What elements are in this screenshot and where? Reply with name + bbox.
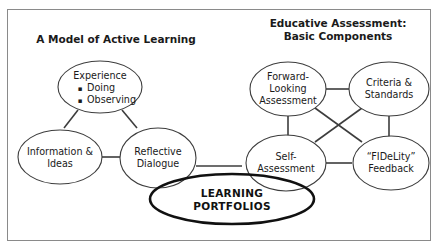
node-forward-looking-line3: Assessment [259, 95, 317, 106]
node-fidelity-line1: “FIDeLity” [367, 151, 416, 162]
node-fidelity-feedback[interactable]: “FIDeLity” Feedback [353, 136, 429, 190]
node-experience[interactable]: Experience ▪ Doing ▪ Observing [58, 61, 142, 113]
heading-left: A Model of Active Learning [36, 33, 196, 45]
node-self-assessment[interactable]: Self- Assessment [246, 135, 326, 191]
node-criteria-line1: Criteria & [366, 77, 413, 88]
node-forward-looking-line2: Looking [269, 83, 306, 94]
heading-right-line2: Basic Components [284, 30, 393, 42]
node-self-assessment-line2: Assessment [257, 163, 315, 174]
node-information-shape[interactable] [18, 130, 102, 184]
node-experience-bullet-doing: Doing [87, 82, 115, 93]
node-criteria-and-standards[interactable]: Criteria & Standards [349, 62, 429, 116]
node-learning-portfolios-shape[interactable] [150, 174, 314, 224]
node-information-and-ideas[interactable]: Information & Ideas [18, 130, 102, 184]
connector-experience-to-information [64, 110, 78, 128]
node-experience-bullet-observing: Observing [87, 94, 136, 105]
node-reflective-line2: Dialogue [137, 158, 180, 169]
node-learning-portfolios-line1: LEARNING [201, 187, 264, 199]
node-self-assessment-line1: Self- [276, 151, 297, 162]
node-forward-looking-line1: Forward- [267, 71, 309, 82]
bullet-icon-doing: ▪ [78, 85, 83, 93]
node-forward-looking-assessment[interactable]: Forward- Looking Assessment [250, 62, 326, 116]
figure-canvas: A Model of Active Learning Educative Ass… [0, 0, 442, 251]
node-learning-portfolios-line2: PORTFOLIOS [193, 200, 271, 212]
node-information-line1: Information & [27, 146, 94, 157]
bullet-icon-observing: ▪ [78, 97, 83, 105]
node-criteria-line2: Standards [365, 89, 414, 100]
node-information-line2: Ideas [47, 158, 73, 169]
concept-diagram: A Model of Active Learning Educative Ass… [0, 0, 442, 251]
node-experience-label: Experience [73, 70, 127, 81]
node-reflective-line1: Reflective [134, 146, 181, 157]
node-learning-portfolios[interactable]: LEARNING PORTFOLIOS [150, 174, 314, 224]
connector-experience-to-reflective [122, 110, 137, 128]
node-fidelity-line2: Feedback [368, 163, 414, 174]
heading-right-line1: Educative Assessment: [270, 17, 407, 29]
